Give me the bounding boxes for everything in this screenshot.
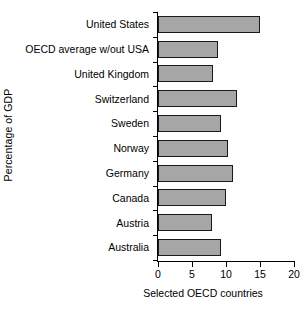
x-axis-title: Selected OECD countries	[100, 287, 306, 299]
bar	[158, 16, 260, 33]
bar-slot	[158, 37, 294, 62]
y-axis-tick	[153, 62, 158, 63]
y-axis-tick	[153, 111, 158, 112]
plot-area	[158, 12, 294, 260]
y-axis-tick-label: Canada	[14, 186, 154, 211]
y-axis-tick	[153, 186, 158, 187]
y-axis-tick-label: Austria	[14, 210, 154, 235]
bar-series	[158, 12, 294, 260]
x-axis-tick	[192, 262, 193, 267]
bar-slot	[158, 210, 294, 235]
x-axis-tick	[294, 262, 295, 267]
y-axis-tick	[153, 86, 158, 87]
y-axis-tick-label: Switzerland	[14, 86, 154, 111]
x-axis-tick	[158, 262, 159, 267]
y-axis-tick-label: Sweden	[14, 111, 154, 136]
x-axis-tick-label: 20	[274, 268, 306, 280]
bar-slot	[158, 186, 294, 211]
y-axis-tick-label: Australia	[14, 235, 154, 260]
bar-slot	[158, 235, 294, 260]
x-axis-tick	[226, 262, 227, 267]
bar	[158, 189, 226, 206]
bar-slot	[158, 161, 294, 186]
bar	[158, 165, 233, 182]
bar	[158, 41, 218, 58]
bar-slot	[158, 111, 294, 136]
y-axis-tick-label: United States	[14, 12, 154, 37]
y-axis-tick-labels: United StatesOECD average w/out USAUnite…	[14, 12, 154, 260]
y-axis-tick	[153, 136, 158, 137]
y-axis-title-text: Percentage of GDP	[2, 89, 14, 182]
bar-slot	[158, 62, 294, 87]
bar-slot	[158, 86, 294, 111]
x-axis-tick	[260, 262, 261, 267]
bar	[158, 239, 221, 256]
y-axis-tick-label: OECD average w/out USA	[14, 37, 154, 62]
bar-chart: Percentage of GDP United StatesOECD aver…	[0, 0, 306, 310]
y-axis-tick	[153, 37, 158, 38]
bar	[158, 214, 212, 231]
y-axis-tick-label: Germany	[14, 161, 154, 186]
y-axis-tick-label: United Kingdom	[14, 62, 154, 87]
y-axis-tick	[153, 210, 158, 211]
bar	[158, 115, 221, 132]
bar	[158, 90, 237, 107]
bar-slot	[158, 136, 294, 161]
bar	[158, 140, 228, 157]
y-axis-tick	[153, 161, 158, 162]
bar-slot	[158, 12, 294, 37]
y-axis-tick	[153, 12, 158, 13]
y-axis-tick	[153, 235, 158, 236]
y-axis-tick-label: Norway	[14, 136, 154, 161]
bar	[158, 65, 213, 82]
